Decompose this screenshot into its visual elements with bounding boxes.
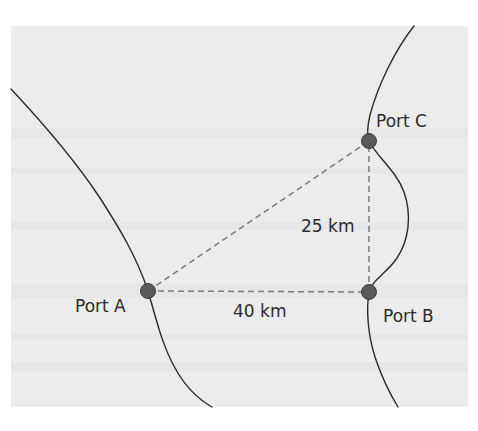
- texture-stripe: [11, 362, 468, 372]
- port-a-label: Port A: [75, 296, 126, 316]
- port-c-label: Port C: [376, 111, 427, 131]
- texture-stripe: [11, 334, 468, 340]
- port-a-marker: [141, 284, 156, 299]
- map-panel: [11, 26, 468, 407]
- port-b-marker: [362, 285, 377, 300]
- ports-triangle-diagram: Port A Port B Port C 40 km 25 km: [0, 0, 478, 431]
- distance-bc-label: 25 km: [301, 216, 354, 236]
- port-c-marker: [362, 134, 377, 149]
- panel-background: [11, 26, 468, 407]
- distance-ab-label: 40 km: [233, 301, 286, 321]
- port-b-label: Port B: [383, 306, 434, 326]
